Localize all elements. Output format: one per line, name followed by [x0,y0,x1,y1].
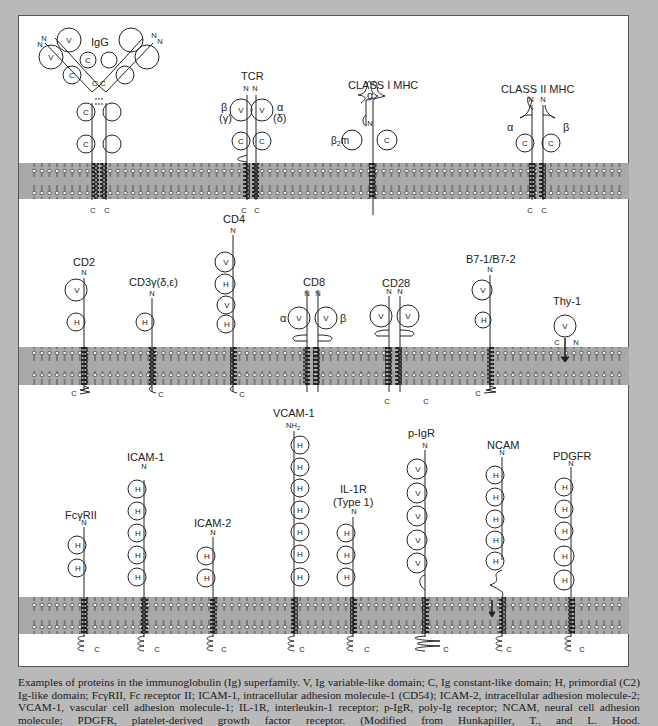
n-terminus: N [315,289,320,298]
n-terminus: N [528,95,533,104]
label-cd8-beta: β [340,312,346,324]
domain-h: H [297,484,303,493]
domain-v: V [415,465,421,474]
domain-h: H [297,528,303,537]
c-terminus: C [71,389,77,398]
domain-v: V [415,512,421,521]
label-mhc2-alpha: α [507,121,514,133]
n-terminus: N [149,289,154,298]
hinge-c: C [92,79,98,88]
domain-c: C [548,139,554,148]
domain-h: H [493,557,499,566]
label-tcr: TCR [241,70,264,82]
c-terminus: C [241,206,247,215]
n-terminus: N [568,459,573,468]
n-terminus: N [397,287,402,296]
n-terminus: N [151,31,156,40]
label-cd2: CD2 [73,256,95,268]
domain-v: V [223,258,229,267]
n-terminus: N [252,84,257,93]
c-terminus: C [527,206,533,215]
domain-v: V [480,286,486,295]
n-terminus: N [386,287,391,296]
domain-h: H [562,576,568,585]
c-terminus: C [475,389,481,398]
domain-h: H [135,551,141,560]
domain-c: C [384,136,390,145]
nh2-terminus: NH2 [286,421,300,431]
domain-c: C [69,71,75,80]
label-mhc1-alpha: α [367,89,374,101]
domain-v: V [378,312,384,321]
n-terminus: N [573,338,578,347]
n-terminus: N [367,119,372,128]
c-terminus: C [384,397,390,406]
domain-h: H [297,573,303,582]
domain-h: H [344,529,350,538]
membrane-row-1 [19,163,629,199]
domain-v: V [259,106,265,115]
c-terminus: C [254,206,260,215]
c-terminus: C [506,645,512,654]
label-tcr-delta: (δ) [273,112,286,124]
membrane-row-2 [19,347,629,385]
domain-h: H [135,507,141,516]
domain-v: V [74,286,80,295]
c-terminus: C [239,390,245,399]
n-terminus: N [304,289,309,298]
domain-h: H [142,318,148,327]
c-terminus: C [423,397,429,406]
domain-v: V [415,559,421,568]
n-terminus: N [422,441,427,450]
domain-h: H [481,316,487,325]
n-terminus: N [499,448,504,457]
domain-c: C [85,56,91,65]
c-terminus: C [541,206,547,215]
domain-h: H [344,573,350,582]
c-terminus: C [90,206,96,215]
domain-c: C [238,137,244,146]
figure-caption: Examples of proteins in the immunoglobul… [18,676,640,726]
domain-c: C [522,139,528,148]
n-terminus: N [141,462,146,471]
n-terminus: N [41,34,46,43]
label-beta2m: β2m [331,135,349,147]
domain-h: H [344,551,350,560]
domain-h: H [74,318,80,327]
domain-v: V [562,322,568,331]
domain-h: H [493,515,499,524]
label-il1r: IL-1R [340,483,367,495]
c-terminus: C [221,645,227,654]
domain-c: C [259,137,265,146]
c-terminus: C [154,645,160,654]
domain-h: H [204,574,210,583]
n-terminus: N [81,518,86,527]
n-terminus: N [351,507,356,516]
label-b7: B7-1/B7-2 [466,253,516,265]
domain-v: V [296,314,302,323]
domain-h: H [493,493,499,502]
label-cd3: CD3γ(δ,ε) [129,276,178,288]
hinge-c: C [100,79,106,88]
n-terminus: N [157,37,162,46]
domain-h: H [297,506,303,515]
domain-v: V [238,106,244,115]
c-terminus: C [364,645,370,654]
n-terminus: N [487,265,492,274]
domain-c: C [83,108,89,117]
domain-v: V [66,36,72,45]
n-terminus: N [81,268,86,277]
domain-h: H [135,485,141,494]
label-tcr-gamma: (γ) [219,112,232,124]
label-mhc2-beta: β [563,121,569,133]
domain-c: C [83,140,89,149]
label-class2-mhc: CLASS II MHC [501,83,574,95]
c-terminus: C [94,645,100,654]
domain-h: H [297,441,303,450]
domain-v: V [48,53,54,62]
domain-h: H [75,541,81,550]
domain-v: V [415,489,421,498]
domain-v: V [224,301,230,310]
c-terminus: C [579,645,585,654]
